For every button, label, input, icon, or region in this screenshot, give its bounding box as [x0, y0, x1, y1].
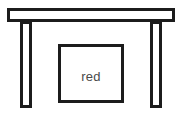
right-leg-shape: [152, 23, 161, 107]
diagram-canvas: red: [0, 0, 182, 114]
diagram-svg: red: [0, 0, 182, 114]
center-square-label: red: [81, 69, 100, 84]
left-leg-shape: [22, 23, 31, 107]
top-bar-shape: [9, 10, 174, 21]
